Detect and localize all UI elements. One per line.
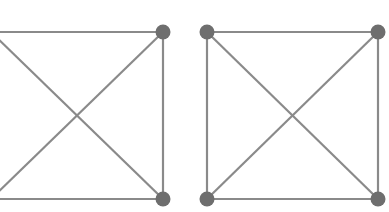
node-D bbox=[156, 192, 171, 207]
diagram-canvas bbox=[0, 0, 389, 212]
right-complete-graph bbox=[200, 25, 386, 207]
node-A bbox=[200, 25, 215, 40]
node-D bbox=[371, 192, 386, 207]
node-B bbox=[371, 25, 386, 40]
node-C bbox=[200, 192, 215, 207]
node-B bbox=[156, 25, 171, 40]
left-complete-graph bbox=[0, 25, 171, 207]
